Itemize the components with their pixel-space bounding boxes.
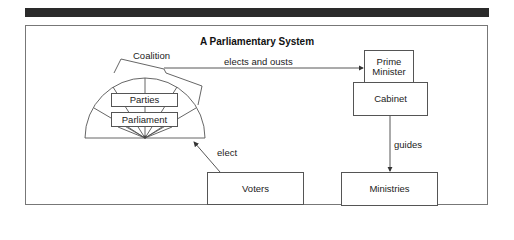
cabinet-label: Cabinet bbox=[374, 94, 407, 104]
parliament-box: Parliament bbox=[111, 112, 178, 127]
voters-label: Voters bbox=[242, 184, 269, 194]
elect-label: elect bbox=[217, 147, 237, 158]
cabinet-box: Cabinet bbox=[353, 82, 428, 116]
ministries-label: Ministries bbox=[369, 184, 409, 194]
parties-label: Parties bbox=[130, 95, 160, 105]
ministries-box: Ministries bbox=[341, 172, 438, 206]
coalition-label: Coalition bbox=[133, 50, 170, 61]
parliament-chamber-icon bbox=[85, 78, 205, 138]
prime-minister-label-line2: Minister bbox=[372, 67, 405, 77]
guides-label: guides bbox=[394, 139, 422, 150]
prime-minister-label-line1: Prime bbox=[377, 57, 402, 67]
elects-and-ousts-label: elects and ousts bbox=[224, 56, 293, 67]
diagram-title: A Parliamentary System bbox=[0, 36, 514, 47]
parliament-label: Parliament bbox=[122, 115, 167, 125]
prime-minister-box: Prime Minister bbox=[364, 50, 414, 83]
parties-box: Parties bbox=[111, 93, 178, 107]
voters-box: Voters bbox=[207, 172, 304, 205]
